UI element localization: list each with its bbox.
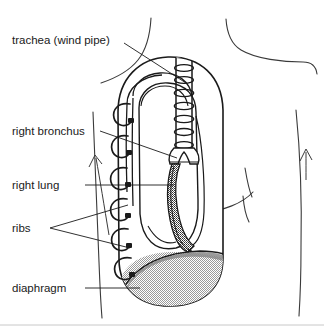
label-diaphragm: diaphragm	[12, 282, 66, 294]
label-bronchus: right bronchus	[12, 125, 85, 137]
arm-arrow-right	[300, 149, 312, 180]
label-trachea: trachea (wind pipe)	[12, 34, 110, 46]
respiratory-diagram: trachea (wind pipe) right bronchus right…	[0, 0, 324, 329]
label-ribs: ribs	[12, 222, 31, 234]
label-lung: right lung	[12, 179, 59, 191]
leader-ribs-upper	[50, 205, 128, 228]
arm-arrow	[89, 155, 109, 235]
leader-ribs-lower	[50, 228, 130, 248]
diagram-canvas: trachea (wind pipe) right bronchus right…	[0, 0, 324, 329]
